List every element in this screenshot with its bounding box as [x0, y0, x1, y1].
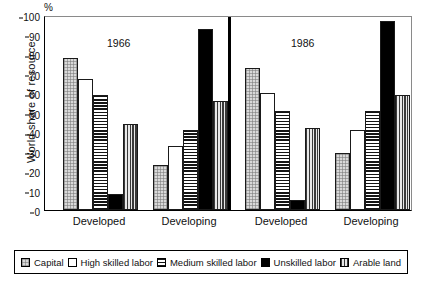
y-tick-80: 80	[29, 51, 45, 62]
y-tick-mark	[25, 56, 29, 57]
bar	[93, 95, 108, 210]
legend-swatch-icon	[157, 258, 166, 267]
bar	[395, 95, 410, 210]
y-tick-10: 10	[29, 187, 45, 198]
bar	[275, 111, 290, 210]
chart-container: World share of resource % 01020304050607…	[0, 0, 422, 282]
legend-swatch-icon	[340, 258, 349, 267]
y-tick-mark	[25, 76, 29, 77]
legend-item[interactable]: Arable land	[340, 257, 401, 268]
bar	[245, 68, 260, 210]
bar	[168, 146, 183, 210]
legend-label: Capital	[34, 257, 64, 268]
legend-item[interactable]: Capital	[21, 257, 64, 268]
bar-group	[153, 17, 228, 210]
y-tick-70: 70	[29, 70, 45, 81]
bar	[213, 101, 228, 210]
y-tick-60: 60	[29, 90, 45, 101]
y-tick-mark	[25, 173, 29, 174]
y-tick-90: 90	[29, 31, 45, 42]
legend-item[interactable]: Unskilled labor	[261, 257, 336, 268]
y-tick-mark	[25, 115, 29, 116]
bar	[260, 93, 275, 210]
legend-item[interactable]: Medium skilled labor	[157, 257, 257, 268]
y-axis-title: World share of resource	[25, 17, 37, 187]
y-axis-unit-label: %	[44, 2, 53, 13]
bar	[123, 124, 138, 210]
bar	[335, 153, 350, 210]
bar	[183, 130, 198, 210]
bar	[78, 79, 93, 210]
y-tick-100: 100	[23, 12, 45, 23]
bar	[365, 111, 380, 210]
bar	[350, 130, 365, 210]
bar	[305, 128, 320, 210]
y-tick-20: 20	[29, 168, 45, 179]
bar-group	[63, 17, 138, 210]
legend-swatch-icon	[21, 258, 30, 267]
bar	[108, 194, 123, 210]
bar	[153, 165, 168, 210]
legend-label: Medium skilled labor	[170, 257, 257, 268]
bar	[198, 29, 213, 210]
legend-label: Unskilled labor	[274, 257, 336, 268]
y-tick-50: 50	[29, 109, 45, 120]
y-tick-mark	[25, 134, 29, 135]
chart-legend: CapitalHigh skilled laborMedium skilled …	[14, 250, 408, 274]
legend-label: High skilled labor	[81, 257, 153, 268]
y-tick-mark	[25, 193, 29, 194]
bar-group	[245, 17, 320, 210]
y-tick-mark	[25, 37, 29, 38]
legend-label: Arable land	[353, 257, 401, 268]
legend-swatch-icon	[68, 258, 77, 267]
legend-swatch-icon	[261, 258, 270, 267]
plot-area: 0102030405060708090100 1966 1986	[44, 16, 412, 211]
bar	[380, 21, 395, 210]
y-tick-30: 30	[29, 148, 45, 159]
y-tick-mark	[19, 17, 23, 18]
y-tick-mark	[25, 95, 29, 96]
y-tick-mark	[25, 154, 29, 155]
legend-item[interactable]: High skilled labor	[68, 257, 153, 268]
bar	[63, 58, 78, 210]
y-tick-40: 40	[29, 129, 45, 140]
y-tick-mark	[30, 212, 34, 213]
bar-group	[335, 17, 410, 210]
x-axis-label-group-4: Developing	[316, 215, 422, 227]
bar	[290, 200, 305, 210]
